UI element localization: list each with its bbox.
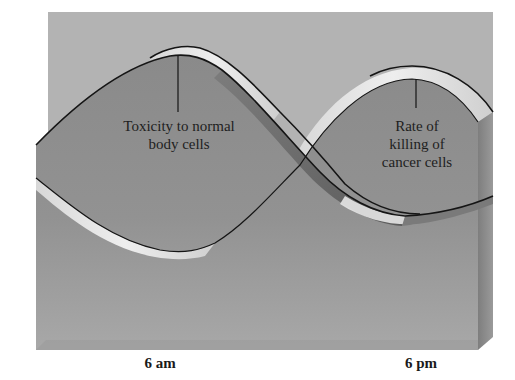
cancer-label-line-2: killing of <box>362 135 472 153</box>
cancer-label-line-3: cancer cells <box>362 153 472 171</box>
toxicity-label: Toxicity to normal body cells <box>96 117 262 153</box>
cancer-label-line-1: Rate of <box>362 117 472 135</box>
box-side-face <box>478 112 493 350</box>
x-tick-6pm: 6 pm <box>405 355 437 372</box>
box-bottom-bevel <box>36 340 478 350</box>
cancer-kill-rate-label: Rate of killing of cancer cells <box>362 117 472 171</box>
toxicity-label-line-1: Toxicity to normal <box>96 117 262 135</box>
chronotherapy-diagram <box>0 0 515 380</box>
toxicity-label-line-2: body cells <box>96 135 262 153</box>
x-tick-6am: 6 am <box>144 355 175 372</box>
